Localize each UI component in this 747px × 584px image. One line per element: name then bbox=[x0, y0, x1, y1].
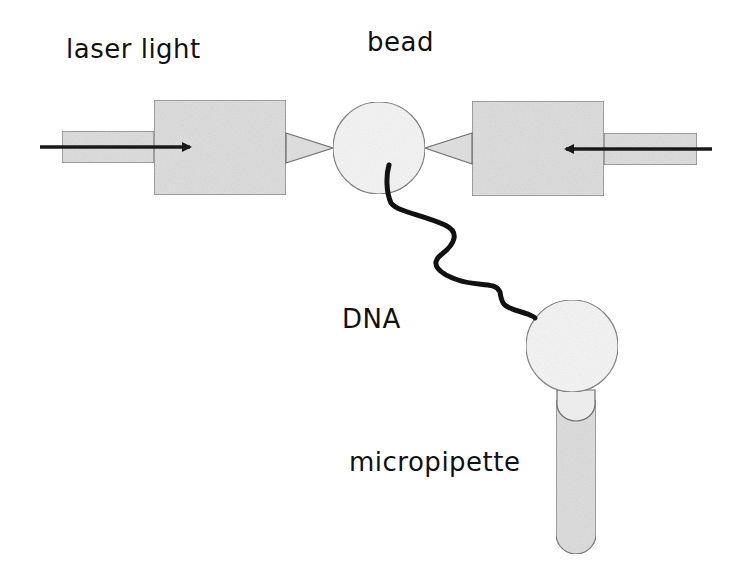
micropipette-tip bbox=[557, 390, 595, 421]
left-laser-objective bbox=[40, 100, 333, 195]
diagram-canvas bbox=[0, 0, 747, 584]
laser-light-label: laser light bbox=[66, 34, 201, 64]
micropipette-label: micropipette bbox=[349, 447, 520, 477]
left-laser-cone bbox=[286, 133, 333, 163]
micropipette bbox=[556, 390, 596, 554]
bead-label: bead bbox=[367, 27, 434, 57]
pipette-bead bbox=[526, 300, 618, 392]
right-laser-objective bbox=[425, 101, 712, 196]
dna-label: DNA bbox=[342, 304, 401, 334]
right-laser-cone bbox=[425, 133, 472, 164]
trapped-bead bbox=[333, 102, 425, 194]
micropipette-tube bbox=[556, 400, 596, 554]
